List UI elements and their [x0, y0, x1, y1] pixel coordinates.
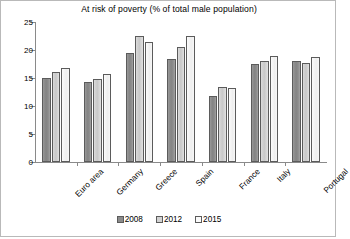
bar	[251, 64, 260, 162]
bar	[302, 63, 311, 162]
bar	[292, 61, 301, 162]
bar	[145, 42, 154, 162]
x-axis-category-label: Euro area	[73, 167, 105, 199]
legend-label: 2008	[125, 215, 143, 224]
x-axis-tick-mark	[160, 162, 161, 166]
x-axis-category-label: Spain	[194, 167, 215, 188]
x-axis-category-label: Italy	[276, 167, 293, 184]
y-axis-tick-label: 10	[24, 102, 33, 111]
legend-swatch	[117, 216, 124, 223]
x-axis-tick-mark	[285, 162, 286, 166]
y-axis-tick-label: 5	[29, 130, 33, 139]
bar-group	[209, 22, 237, 162]
bar	[126, 53, 135, 162]
bar-group	[84, 22, 112, 162]
bar-group	[292, 22, 320, 162]
x-axis-tick-mark	[244, 162, 245, 166]
bar	[42, 78, 51, 162]
bar	[52, 72, 61, 162]
bar	[209, 96, 218, 162]
bar	[218, 87, 227, 162]
bar	[135, 36, 144, 162]
x-axis-category-label: Germany	[114, 167, 144, 197]
legend-item: 2012	[156, 215, 182, 224]
bar-group	[42, 22, 70, 162]
x-axis-tick-mark	[202, 162, 203, 166]
bar	[177, 47, 186, 162]
legend-swatch	[156, 216, 163, 223]
bar	[93, 79, 102, 162]
bar	[103, 74, 112, 162]
chart-container: At risk of poverty (% of total male popu…	[0, 0, 336, 237]
bar	[270, 56, 279, 162]
bar-group	[126, 22, 154, 162]
x-axis-tick-mark	[118, 162, 119, 166]
bar-group	[167, 22, 195, 162]
x-axis-tick-mark	[77, 162, 78, 166]
bar	[61, 68, 70, 162]
legend-item: 2015	[195, 215, 221, 224]
chart-legend: 200820122015	[1, 215, 337, 224]
plot-area: 0510152025	[35, 22, 327, 162]
bar-group	[251, 22, 279, 162]
legend-swatch	[195, 216, 202, 223]
x-axis-category-label: Portugal	[322, 167, 350, 195]
legend-label: 2015	[203, 215, 221, 224]
x-axis-line	[35, 162, 327, 163]
x-axis-category-label: France	[237, 167, 261, 191]
bar	[167, 59, 176, 162]
y-axis-tick-label: 15	[24, 74, 33, 83]
bar	[311, 57, 320, 162]
bar	[84, 82, 93, 162]
y-axis-tick-label: 0	[29, 158, 33, 167]
y-axis-tick-label: 25	[24, 18, 33, 27]
y-axis-tick-label: 20	[24, 46, 33, 55]
chart-title: At risk of poverty (% of total male popu…	[1, 4, 337, 14]
x-axis-category-label: Greece	[154, 167, 179, 192]
bar	[260, 61, 269, 162]
bar	[186, 36, 195, 162]
bar	[228, 88, 237, 162]
legend-item: 2008	[117, 215, 143, 224]
legend-label: 2012	[164, 215, 182, 224]
